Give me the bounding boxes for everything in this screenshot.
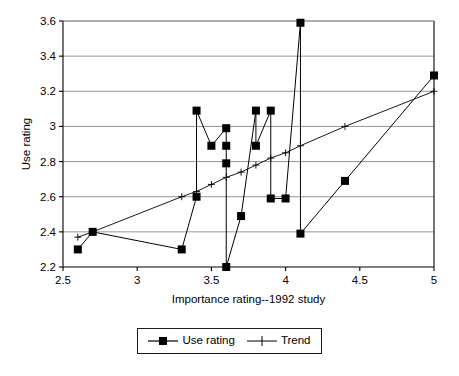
y-tick-label: 3.6 [40, 15, 56, 27]
legend-item-trend: Trend [247, 335, 311, 347]
x-tick-label: 4.5 [352, 274, 368, 286]
data-point-marker-filled-square [178, 245, 186, 253]
data-point-marker-filled-square [341, 177, 349, 185]
legend-marker-filled-square-icon [148, 335, 178, 347]
data-point-marker-plus [282, 149, 289, 156]
data-point-marker-plus [208, 181, 215, 188]
legend-label-use-rating: Use rating [182, 335, 234, 347]
data-point-marker-filled-square [267, 194, 275, 202]
y-tick-label: 2.8 [40, 156, 56, 168]
chart-figure: 2.22.42.62.833.23.43.62.533.544.55Import… [0, 0, 459, 376]
data-point-marker-filled-square [222, 142, 230, 150]
chart-canvas: 2.22.42.62.833.23.43.62.533.544.55Import… [0, 0, 459, 376]
data-point-marker-filled-square [222, 159, 230, 167]
data-point-marker-filled-square [267, 107, 275, 115]
x-tick-label: 4 [282, 274, 289, 286]
x-tick-label: 3.5 [203, 274, 219, 286]
data-point-marker-plus [267, 155, 274, 162]
y-tick-label: 2.6 [40, 191, 56, 203]
data-point-marker-filled-square [222, 263, 230, 271]
y-tick-label: 3 [50, 120, 56, 132]
legend-marker-plus-icon [247, 335, 277, 347]
data-point-marker-plus [297, 142, 304, 149]
data-point-marker-plus [178, 193, 185, 200]
data-point-marker-filled-square [282, 194, 290, 202]
x-tick-label: 2.5 [55, 274, 71, 286]
data-point-marker-filled-square [252, 142, 260, 150]
y-tick-label: 3.4 [40, 50, 57, 62]
data-point-marker-filled-square [252, 107, 260, 115]
data-point-marker-plus [74, 234, 81, 241]
x-tick-label: 5 [431, 274, 437, 286]
chart-legend: Use rating Trend [137, 328, 322, 354]
data-point-marker-plus [252, 162, 259, 169]
data-point-marker-filled-square [430, 71, 438, 79]
y-tick-label: 2.4 [40, 226, 57, 238]
data-point-marker-plus [341, 123, 348, 130]
data-point-marker-plus [238, 169, 245, 176]
y-axis-title: Use rating [20, 118, 32, 170]
data-point-marker-filled-square [74, 245, 82, 253]
data-point-marker-filled-square [193, 107, 201, 115]
y-tick-label: 2.2 [40, 261, 56, 273]
data-point-marker-filled-square [222, 124, 230, 132]
data-point-marker-filled-square [207, 142, 215, 150]
x-tick-label: 3 [134, 274, 140, 286]
legend-item-use-rating: Use rating [148, 335, 234, 347]
y-tick-label: 3.2 [40, 85, 56, 97]
x-axis-title: Importance rating--1992 study [172, 293, 326, 305]
data-point-marker-filled-square [296, 19, 304, 27]
data-point-marker-plus [431, 88, 438, 95]
data-point-marker-filled-square [237, 212, 245, 220]
legend-label-trend: Trend [281, 335, 311, 347]
data-point-marker-filled-square [296, 230, 304, 238]
data-point-marker-plus [223, 174, 230, 181]
